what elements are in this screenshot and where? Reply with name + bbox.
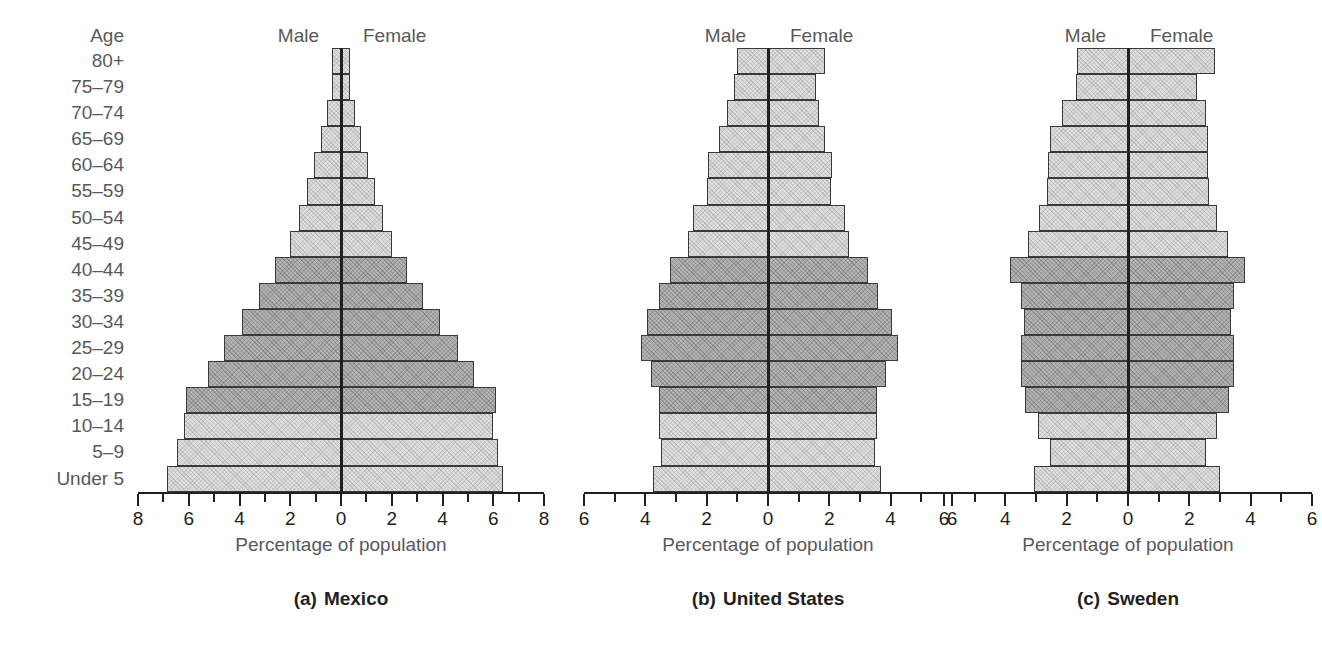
x-tick-label: 4 (640, 508, 651, 530)
bar-male (1038, 413, 1128, 439)
center-axis-line (767, 48, 770, 492)
x-tick-minor (614, 494, 616, 502)
bar-female (1128, 387, 1229, 413)
x-tick-major (890, 494, 892, 506)
bar-female (341, 205, 383, 231)
x-tick-label: 0 (763, 508, 774, 530)
bar-male (1021, 361, 1128, 387)
x-tick-label: 2 (824, 508, 835, 530)
bar-female (1128, 74, 1197, 100)
panel-united-states: MaleFemale6420246Percentage of populatio… (584, 24, 952, 493)
age-label: 35–39 (0, 283, 132, 309)
panel-letter: (b) (692, 588, 716, 609)
bar-female (341, 361, 474, 387)
population-pyramid-figure: Age 80+75–7970–7465–6960–6455–5950–5445–… (0, 0, 1322, 672)
bar-male (719, 126, 768, 152)
bar-female (341, 231, 392, 257)
bar-male (661, 439, 768, 465)
x-tick-major (239, 494, 241, 506)
bar-female (341, 126, 361, 152)
bar-female (768, 283, 878, 309)
x-tick-major (1188, 494, 1190, 506)
x-axis-title: Percentage of population (138, 534, 544, 556)
bar-female (1128, 257, 1245, 283)
age-axis-labels: Age 80+75–7970–7465–6960–6455–5950–5445–… (0, 24, 132, 492)
bar-male (314, 152, 341, 178)
x-tick-label: 4 (437, 508, 448, 530)
age-label: 25–29 (0, 335, 132, 361)
x-tick-major (340, 494, 342, 506)
x-axis: 864202468Percentage of population(a)Mexi… (138, 492, 544, 493)
age-label: 30–34 (0, 309, 132, 335)
bar-male (177, 439, 341, 465)
male-legend-label: Male (278, 24, 319, 48)
age-label: 5–9 (0, 439, 132, 465)
bar-female (341, 178, 375, 204)
bar-male (707, 178, 768, 204)
x-tick-label: 8 (133, 508, 144, 530)
bar-female (768, 152, 832, 178)
age-label: 55–59 (0, 178, 132, 204)
bar-female (341, 100, 355, 126)
x-tick-major (828, 494, 830, 506)
bar-male (275, 257, 341, 283)
x-tick-minor (920, 494, 922, 502)
bar-female (341, 387, 496, 413)
bar-female (768, 439, 875, 465)
bar-female (341, 413, 493, 439)
x-tick-minor (675, 494, 677, 502)
x-tick-minor (213, 494, 215, 502)
bar-male (224, 335, 341, 361)
x-tick-label: 0 (1123, 508, 1134, 530)
panel-caption: (a)Mexico (138, 588, 544, 610)
x-tick-major (188, 494, 190, 506)
x-tick-major (289, 494, 291, 506)
x-tick-label: 6 (183, 508, 194, 530)
bar-female (1128, 231, 1228, 257)
x-tick-minor (974, 494, 976, 502)
bar-female (768, 309, 892, 335)
bar-female (768, 126, 825, 152)
center-axis-line (1127, 48, 1130, 492)
x-tick-label: 2 (701, 508, 712, 530)
x-tick-label: 2 (386, 508, 397, 530)
bar-female (341, 152, 368, 178)
x-tick-minor (467, 494, 469, 502)
x-tick-minor (1096, 494, 1098, 502)
panel-title: Mexico (324, 588, 388, 609)
x-tick-major (137, 494, 139, 506)
bar-male (1047, 178, 1128, 204)
bar-male (641, 335, 768, 361)
x-tick-major (951, 494, 953, 506)
panel-caption: (c)Sweden (944, 588, 1312, 610)
plot-area (584, 48, 952, 492)
age-label: 40–44 (0, 257, 132, 283)
bar-female (768, 48, 825, 74)
x-axis: 6420246Percentage of population(b)United… (584, 492, 952, 493)
x-tick-label: 4 (1000, 508, 1011, 530)
x-tick-minor (798, 494, 800, 502)
bar-male (167, 466, 341, 492)
bar-female (341, 283, 423, 309)
bar-female (1128, 100, 1206, 126)
male-legend-label: Male (1065, 24, 1106, 48)
bar-male (1021, 283, 1128, 309)
age-label: 75–79 (0, 74, 132, 100)
bar-female (341, 439, 498, 465)
age-label: 80+ (0, 48, 132, 74)
x-tick-label: 4 (885, 508, 896, 530)
bar-male (1048, 152, 1128, 178)
x-tick-label: 6 (939, 508, 950, 530)
bar-male (734, 74, 768, 100)
x-tick-major (706, 494, 708, 506)
bar-male (653, 466, 768, 492)
x-tick-label: 2 (285, 508, 296, 530)
x-tick-minor (1280, 494, 1282, 502)
center-axis-line (340, 48, 343, 492)
x-tick-label: 6 (1307, 508, 1318, 530)
panel-header: MaleFemale (584, 24, 952, 48)
x-tick-minor (365, 494, 367, 502)
bar-male (659, 387, 768, 413)
x-tick-minor (1035, 494, 1037, 502)
bar-female (1128, 126, 1208, 152)
